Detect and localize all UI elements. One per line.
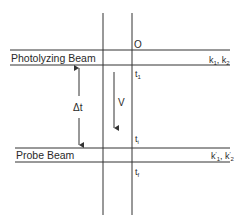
delta-t-label: Δt bbox=[73, 102, 83, 113]
t1-label: t1 bbox=[135, 69, 142, 80]
k-probe-label: k′1, k′2 bbox=[211, 151, 235, 162]
k-photolyzing-label: k1, k2 bbox=[209, 55, 230, 66]
origin-label: O bbox=[134, 39, 142, 50]
velocity-label: V bbox=[118, 97, 125, 108]
molecular-beam-timing-diagram: Photolyzing Beam Probe Beam O Δt V t1 ti… bbox=[0, 0, 248, 224]
ti-label: ti bbox=[135, 134, 139, 145]
tf-label: tf bbox=[135, 167, 140, 178]
photolyzing-beam-label: Photolyzing Beam bbox=[11, 52, 96, 64]
probe-beam-label: Probe Beam bbox=[16, 149, 75, 161]
